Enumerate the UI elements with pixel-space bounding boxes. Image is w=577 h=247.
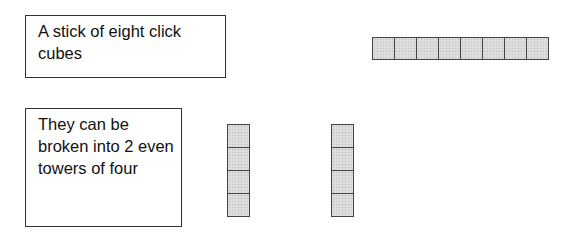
- stick-label-box: A stick of eight click cubes: [25, 15, 226, 78]
- towers-label-box: They can be broken into 2 even towers of…: [25, 108, 182, 227]
- click-cube: [438, 37, 461, 60]
- click-cube: [331, 124, 354, 148]
- tower-of-four-1: [227, 124, 250, 216]
- click-cube: [331, 147, 354, 171]
- click-cube: [331, 193, 354, 217]
- towers-label: They can be broken into 2 even towers of…: [38, 115, 174, 177]
- tower-of-four-2: [331, 124, 354, 216]
- click-cube: [416, 37, 439, 60]
- click-cube: [227, 193, 250, 217]
- click-cube: [460, 37, 483, 60]
- click-cube: [504, 37, 527, 60]
- click-cube: [394, 37, 417, 60]
- click-cube: [331, 170, 354, 194]
- eight-cube-stick: [372, 37, 548, 60]
- click-cube: [227, 124, 250, 148]
- click-cube: [227, 147, 250, 171]
- click-cube: [372, 37, 395, 60]
- click-cube: [526, 37, 549, 60]
- click-cube: [482, 37, 505, 60]
- stick-label: A stick of eight click cubes: [38, 22, 181, 62]
- click-cube: [227, 170, 250, 194]
